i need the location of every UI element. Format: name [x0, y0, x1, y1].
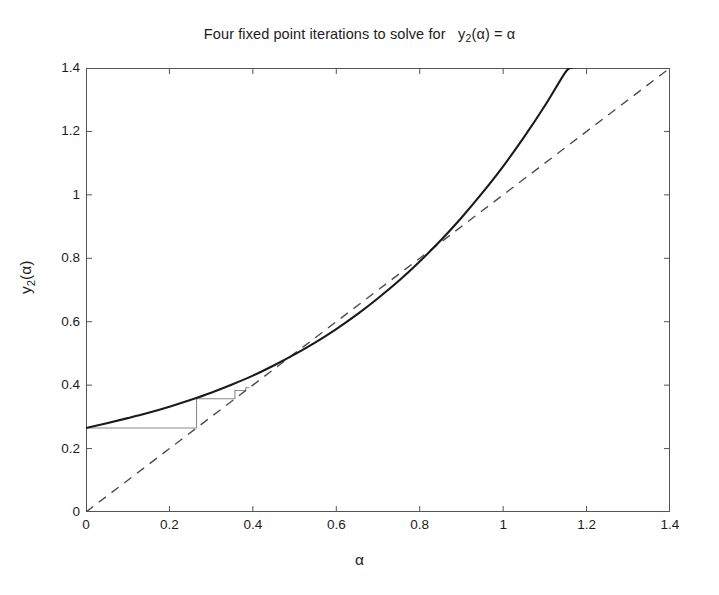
chart-title-func-arg: (α): [471, 26, 489, 42]
y-tick-label-0: 0: [72, 505, 80, 519]
x-tick-label-2: 0.4: [243, 518, 262, 532]
y-tick-label-5: 1: [72, 188, 80, 202]
function-curve-y2: [86, 68, 572, 428]
chart-title: Four fixed point iterations to solve for…: [0, 26, 719, 44]
y-tick-label-3: 0.6: [61, 315, 80, 329]
x-tick-label-6: 1.2: [577, 518, 596, 532]
chart-title-formula: y2(α) = α: [450, 26, 515, 42]
identity-line: [86, 68, 670, 512]
chart-title-lead: Four fixed point iterations to solve for: [204, 26, 446, 42]
identity-line-y-equals-alpha: [86, 68, 670, 512]
x-tick-label-0: 0: [82, 518, 90, 532]
y-axis-tick-labels: 00.20.40.60.811.21.4: [40, 68, 80, 512]
plot-area: [86, 68, 670, 512]
x-tick-label-3: 0.6: [327, 518, 346, 532]
axis-ticks-group: [86, 68, 670, 512]
y-tick-label-4: 0.8: [61, 251, 80, 265]
y-axis-label-sub: 2: [24, 280, 36, 286]
chart-title-rhs: α: [507, 26, 515, 42]
axes-box: [87, 69, 670, 512]
y-axis-label-base: y: [17, 286, 34, 294]
y-tick-label-6: 1.2: [61, 124, 80, 138]
y-tick-label-7: 1.4: [61, 61, 80, 75]
x-axis-tick-labels: 00.20.40.60.811.21.4: [86, 518, 670, 540]
chart-title-equals: =: [494, 26, 503, 42]
y-axis-label-arg: (α): [17, 261, 34, 280]
plot-svg: [86, 68, 670, 512]
x-tick-label-7: 1.4: [661, 518, 680, 532]
x-axis-label: α: [0, 552, 719, 568]
x-tick-label-4: 0.8: [410, 518, 429, 532]
axes-box-group: [87, 69, 670, 512]
y-tick-label-2: 0.4: [61, 378, 80, 392]
y-axis-label: y2(α): [18, 232, 37, 322]
figure-canvas: Four fixed point iterations to solve for…: [0, 0, 719, 595]
y2-curve: [86, 68, 572, 428]
x-tick-label-1: 0.2: [160, 518, 179, 532]
y-tick-label-1: 0.2: [61, 442, 80, 456]
x-tick-label-5: 1: [499, 518, 507, 532]
